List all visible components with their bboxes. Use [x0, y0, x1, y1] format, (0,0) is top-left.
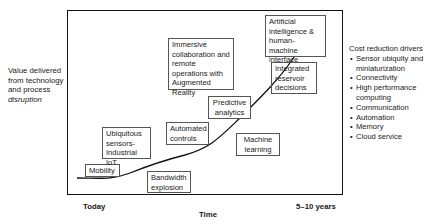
milestone-machine-learning: Machine learning	[236, 133, 280, 156]
cost-reduction-list: Sensor ubiquity and miniaturization Conn…	[349, 54, 429, 142]
milestone-label: Integrated reservoir decisions	[275, 64, 309, 92]
milestone-label: Immersive collaboration and remote opera…	[172, 40, 230, 97]
milestone-label: Automated controls	[170, 124, 207, 143]
y-axis-label-line: disruption	[8, 95, 63, 105]
list-item: Memory	[349, 122, 429, 132]
milestone-predictive-analytics: Predictive analytics	[208, 96, 251, 119]
x-axis-start-label: Today	[83, 202, 105, 211]
milestone-label: Machine learning	[244, 135, 273, 154]
milestone-label: Bandwidth explosion	[151, 173, 186, 192]
x-axis-end-label: 5–10 years	[296, 202, 336, 211]
y-axis-label-line: and process	[8, 85, 63, 95]
milestone-automated-controls: Automated controls	[166, 122, 209, 145]
list-item: Connectivity	[349, 73, 429, 83]
milestone-integrated-reservoir: Integrated reservoir decisions	[271, 62, 317, 94]
y-axis-label-line: Value delivered	[8, 66, 63, 76]
milestone-label: Predictive analytics	[213, 98, 246, 117]
list-item: Communication	[349, 103, 429, 113]
milestone-immersive-collaboration: Immersive collaboration and remote opera…	[168, 38, 234, 90]
cost-reduction-title: Cost reduction drivers	[349, 44, 429, 54]
list-item: High performance computing	[349, 83, 429, 103]
y-axis-label: Value delivered from technology and proc…	[8, 66, 63, 104]
y-axis-label-line: from technology	[8, 76, 63, 86]
milestone-ubiquitous-sensors: Ubiquitous sensors- Industrial IoT	[102, 127, 151, 159]
milestone-artificial-intelligence: Artificial intelligence & human-machine …	[265, 15, 326, 57]
list-item: Cloud service	[349, 132, 429, 142]
milestone-bandwidth-explosion: Bandwidth explosion	[147, 171, 191, 193]
list-item: Automation	[349, 113, 429, 123]
list-item: Sensor ubiquity and miniaturization	[349, 54, 429, 74]
x-axis-title: Time	[199, 210, 217, 219]
cost-reduction-drivers: Cost reduction drivers Sensor ubiquity a…	[349, 44, 429, 142]
